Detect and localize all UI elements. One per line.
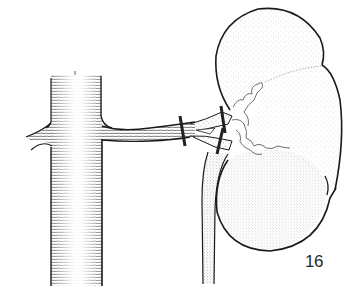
aorta [46,71,112,286]
kidney-illustration [0,0,355,297]
kidney [216,8,342,251]
figure-number-label: 16 [305,252,323,272]
renal-artery [102,112,232,150]
